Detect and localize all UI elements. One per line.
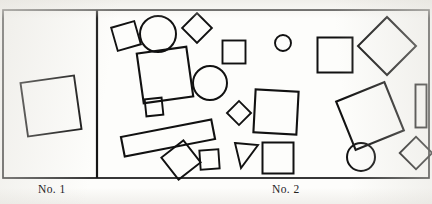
diamond-center — [227, 101, 251, 125]
square-bottom-left-edge — [199, 149, 219, 169]
square-top-right-center — [318, 38, 353, 73]
circle-top-left — [140, 16, 176, 52]
caption-panel-2: No. 2 — [272, 183, 300, 195]
diamond-bottom-right — [400, 137, 432, 170]
square-upper-center — [223, 41, 246, 64]
diamond-top-upper — [182, 13, 212, 43]
small-square-top-left — [111, 21, 141, 51]
large-square-upper-left — [137, 47, 193, 103]
large-square-center — [253, 89, 298, 134]
figure-plate: No. 1 No. 2 — [0, 0, 432, 204]
triangle-bottom-center — [235, 143, 258, 168]
figure-frame — [3, 10, 429, 178]
panel-2-shapes — [111, 13, 432, 180]
circle-mid-left — [193, 66, 227, 100]
square-bottom-center — [263, 143, 294, 174]
large-diamond-top-right — [358, 17, 416, 75]
square-left-panel — [21, 76, 82, 137]
small-circle-top-center — [275, 35, 291, 51]
large-rotated-square-right — [336, 82, 404, 150]
panel-1-shapes — [21, 76, 82, 137]
tall-rect-far-right — [416, 85, 427, 128]
figure-canvas — [0, 0, 432, 204]
caption-panel-1: No. 1 — [38, 183, 66, 195]
